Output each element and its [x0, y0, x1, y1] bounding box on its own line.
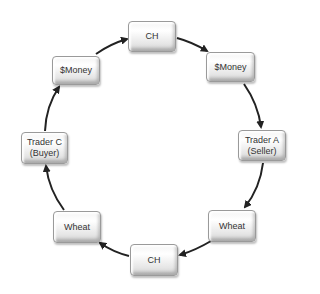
node-trader-c-buyer: Trader C (Buyer): [21, 132, 68, 164]
node-trader-a-seller: Trader A (Seller): [238, 130, 286, 161]
node-label: CH: [148, 255, 161, 266]
node-label: Wheat: [64, 222, 90, 233]
node-label: Wheat: [219, 221, 245, 232]
arrow-trader-a-to-wheat-right: [245, 163, 263, 207]
node-money-left: $Money: [52, 56, 100, 85]
arrow-trader-c-to-money-left: [45, 87, 59, 131]
node-wheat-right: Wheat: [208, 210, 256, 242]
node-money-right: $Money: [206, 52, 255, 82]
node-ch-top: CH: [128, 21, 176, 52]
arrow-ch-to-money-right: [177, 38, 207, 51]
arrow-wheat-left-to-trader-c: [46, 166, 64, 210]
node-label: Trader C (Buyer): [27, 137, 62, 159]
arrow-money-left-to-ch: [96, 39, 127, 54]
node-label: Trader A (Seller): [245, 135, 279, 157]
node-wheat-left: Wheat: [53, 211, 101, 243]
arrow-ch-bottom-to-wheat-left: [100, 243, 129, 256]
node-ch-bottom: CH: [130, 244, 178, 276]
node-label: $Money: [60, 65, 92, 76]
arrow-money-right-to-trader-a: [244, 84, 261, 127]
arrow-wheat-right-to-ch-bottom: [180, 241, 211, 255]
node-label: $Money: [214, 62, 246, 73]
node-label: CH: [146, 31, 159, 42]
